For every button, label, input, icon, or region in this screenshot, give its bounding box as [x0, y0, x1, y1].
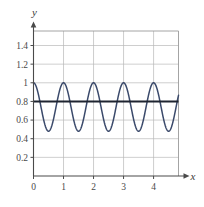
y-tick-label-0.6: 0.6: [16, 115, 28, 125]
curve-oscillating: [34, 83, 179, 131]
y-tick-label-0.8: 0.8: [16, 97, 28, 107]
y-tick-label-1: 1: [23, 78, 28, 88]
plot-figure: 0.20.40.60.811.21.401234 x y: [0, 0, 204, 207]
gridlines-group: [34, 31, 179, 176]
data-series-group: [34, 83, 179, 131]
x-axis-arrow: [184, 173, 190, 179]
y-tick-label-1.4: 1.4: [16, 41, 28, 51]
y-tick-label-0.2: 0.2: [16, 153, 28, 163]
tick-labels-group: 0.20.40.60.811.21.401234: [16, 41, 156, 192]
axes-group: [31, 22, 190, 179]
x-tick-label-1: 1: [61, 182, 66, 192]
x-tick-label-3: 3: [121, 182, 126, 192]
y-axis-arrow: [31, 22, 37, 28]
y-tick-label-1.2: 1.2: [16, 60, 28, 70]
x-axis-label: x: [190, 170, 196, 182]
x-tick-label-0: 0: [31, 182, 36, 192]
tick-marks-group: [31, 46, 154, 180]
x-tick-label-2: 2: [91, 182, 96, 192]
y-axis-label: y: [31, 6, 37, 18]
y-tick-label-0.4: 0.4: [16, 134, 28, 144]
chart-svg: 0.20.40.60.811.21.401234 x y: [0, 0, 204, 207]
plot-border-group: [34, 31, 179, 176]
x-tick-label-4: 4: [151, 182, 156, 192]
